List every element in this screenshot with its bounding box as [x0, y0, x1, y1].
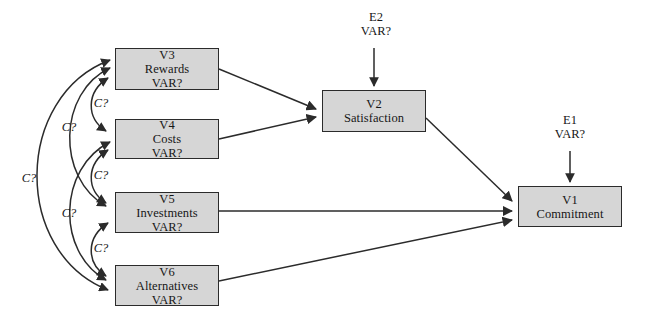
node-costs-line3: VAR?: [152, 146, 183, 160]
node-alternatives[interactable]: V6 Alternatives VAR?: [115, 265, 219, 306]
node-alternatives-line3: VAR?: [152, 293, 183, 307]
node-commitment-line2: Commitment: [537, 207, 604, 221]
node-costs-line2: Costs: [153, 132, 181, 146]
node-commitment[interactable]: V1 Commitment: [518, 186, 622, 227]
path-satisfaction-to-commitment: [426, 118, 512, 201]
residual-e2-line1: E2: [348, 10, 404, 24]
edge-layer: [0, 0, 647, 315]
path-rewards-to-satisfaction: [219, 69, 316, 109]
path-diagram: V3 Rewards VAR? V4 Costs VAR? V5 Investm…: [0, 0, 647, 315]
covariance-label-v4-v5: C?: [90, 168, 112, 183]
path-costs-to-satisfaction: [219, 117, 316, 139]
node-investments-line1: V5: [159, 192, 174, 206]
covariance-label-v3-v4: C?: [90, 96, 112, 111]
node-costs[interactable]: V4 Costs VAR?: [115, 119, 219, 159]
node-investments[interactable]: V5 Investments VAR?: [115, 192, 219, 233]
covariance-label-v5-v6: C?: [90, 241, 112, 256]
residual-e1-line2: VAR?: [542, 127, 598, 141]
node-commitment-line1: V1: [562, 193, 577, 207]
residual-e2-line2: VAR?: [348, 24, 404, 38]
node-costs-line1: V4: [159, 118, 174, 132]
covariance-label-v3-v6: C?: [18, 171, 40, 186]
node-satisfaction-line1: V2: [366, 97, 381, 111]
node-satisfaction[interactable]: V2 Satisfaction: [322, 90, 426, 132]
covariance-v3-v5: [70, 68, 110, 206]
residual-e1-line1: E1: [542, 113, 598, 127]
node-investments-line2: Investments: [136, 206, 198, 220]
node-investments-line3: VAR?: [152, 220, 183, 234]
residual-label-e2: E2 VAR?: [348, 10, 404, 39]
node-alternatives-line1: V6: [159, 265, 174, 279]
node-rewards-line1: V3: [159, 48, 174, 62]
path-alternatives-to-commitment: [219, 220, 512, 281]
covariance-label-v4-v6: C?: [58, 206, 80, 221]
node-alternatives-line2: Alternatives: [136, 279, 198, 293]
node-rewards-line3: VAR?: [152, 76, 183, 90]
node-satisfaction-line2: Satisfaction: [344, 111, 404, 125]
covariance-label-v3-v5: C?: [58, 120, 80, 135]
node-rewards-line2: Rewards: [145, 62, 189, 76]
residual-label-e1: E1 VAR?: [542, 113, 598, 142]
node-rewards[interactable]: V3 Rewards VAR?: [115, 48, 219, 90]
